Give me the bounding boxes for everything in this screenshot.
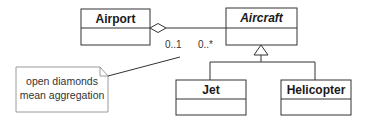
note-aggregation[interactable]: open diamonds mean aggregation [16,67,108,112]
note-anchor-line [108,57,180,76]
note-text-line2: mean aggregation [20,89,105,101]
generalization [210,45,315,80]
multiplicity-aircraft-end: 0..* [198,39,213,50]
class-helicopter[interactable]: Helicopter [281,80,351,115]
aggregation-association [150,24,226,33]
multiplicity-airport-end: 0..1 [165,39,182,50]
note-text-line1: open diamonds [26,75,98,87]
inheritance-triangle-icon [254,45,268,55]
uml-diagram-canvas: Airport Aircraft 0..1 0..* Jet Helicopte… [0,0,366,124]
open-diamond-icon [150,24,166,33]
class-airport-name: Airport [96,12,136,26]
class-jet-name: Jet [202,83,219,97]
class-aircraft[interactable]: Aircraft [226,8,297,45]
class-aircraft-name: Aircraft [239,11,284,25]
class-jet[interactable]: Jet [176,80,246,115]
class-airport[interactable]: Airport [81,9,150,45]
class-helicopter-name: Helicopter [287,83,346,97]
